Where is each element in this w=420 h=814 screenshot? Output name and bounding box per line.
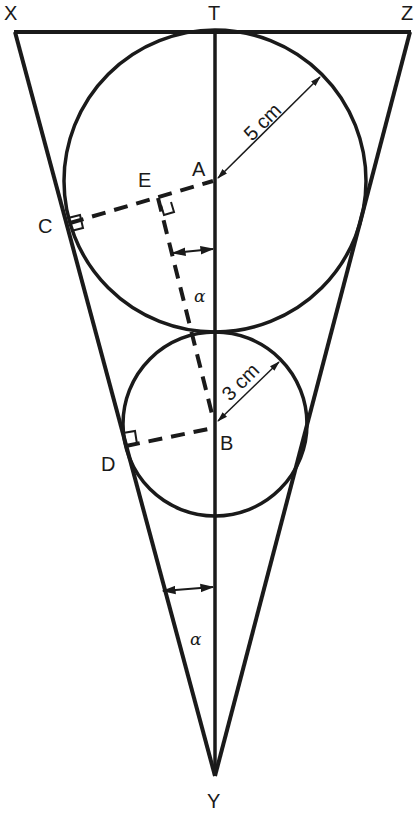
label-c: C: [38, 215, 52, 237]
side-zy: [215, 32, 410, 776]
side-xy: [15, 32, 215, 776]
angle-label-lower: α: [190, 629, 202, 649]
angle-arrow-upper: [173, 249, 213, 253]
triangle-xyz: [14, 32, 411, 776]
label-z: Z: [401, 2, 413, 24]
label-e: E: [138, 169, 151, 191]
geometry-diagram: X T Z A E C B D Y 5 cm 3 cm α α: [0, 0, 420, 814]
dimension-small-radius: 3 cm: [217, 359, 263, 405]
label-t: T: [208, 2, 220, 24]
label-d: D: [101, 453, 115, 475]
label-x: X: [4, 2, 17, 24]
label-b: B: [220, 432, 233, 454]
angle-label-upper: α: [194, 286, 206, 306]
dimension-large-radius: 5 cm: [239, 99, 285, 145]
label-y: Y: [207, 790, 220, 812]
label-a: A: [192, 158, 206, 180]
dashed-db: [126, 428, 213, 446]
angle-arrow-lower: [163, 587, 213, 591]
dashed-eb: [158, 198, 213, 418]
right-angle-e: [161, 202, 174, 215]
